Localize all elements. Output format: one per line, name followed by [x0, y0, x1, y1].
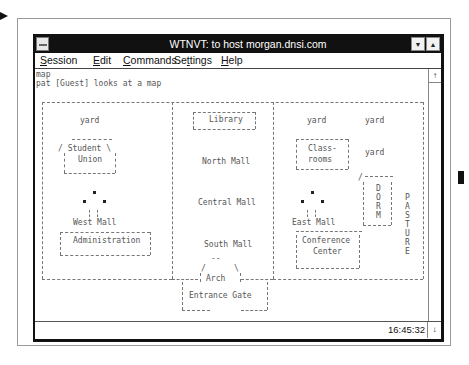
- scroll-down-button[interactable]: ↓: [427, 322, 441, 338]
- menu-help-rest: elp: [229, 54, 243, 66]
- menu-help-mnemonic: H: [221, 54, 229, 66]
- label-classrooms: Class-: [308, 144, 337, 153]
- admin-wall-right: [150, 232, 151, 255]
- label-yard-ne2: yard: [365, 116, 384, 125]
- menu-settings-rest: tings: [190, 54, 212, 66]
- side-marker: [458, 171, 464, 184]
- arch-top: --: [211, 254, 221, 263]
- menu-bar: Session Edit Commands Settings Help: [35, 53, 441, 69]
- dorm-slash: /: [358, 173, 363, 182]
- menu-help[interactable]: Help: [221, 53, 243, 68]
- conference-wall-right: [359, 235, 360, 268]
- tree-icon: [93, 191, 96, 194]
- library-floor: [193, 129, 255, 130]
- student-union-floor: [64, 173, 115, 174]
- gate-floor-right: [241, 310, 267, 311]
- classrooms-wall-left: [296, 139, 297, 169]
- path-line: [89, 210, 90, 217]
- admin-wall-left: [60, 232, 61, 255]
- minimize-button[interactable]: ▼: [411, 37, 425, 51]
- label-conference: Conference: [302, 236, 350, 245]
- arch-wall-left: [200, 273, 201, 282]
- label-arch: Arch: [206, 274, 225, 283]
- tree-icon: [83, 200, 86, 203]
- menu-commands[interactable]: Commands: [123, 53, 177, 68]
- student-union-roof: [72, 139, 112, 140]
- map-border-left: [42, 102, 43, 279]
- map-border-bottom-left: [42, 279, 172, 280]
- arch-wall-right: [240, 273, 241, 282]
- tree-icon: [321, 200, 324, 203]
- path-line: [307, 210, 308, 217]
- arch-slash-right: \: [234, 264, 239, 273]
- label-yard-ne1: yard: [307, 116, 326, 125]
- classrooms-wall-right: [348, 139, 349, 169]
- conference-roof: [296, 231, 362, 232]
- path-line: [315, 210, 316, 217]
- student-union-wall-right: [115, 153, 116, 173]
- map-border-bottom-right: [273, 279, 423, 280]
- menu-settings[interactable]: Settings: [174, 53, 212, 68]
- label-center: Center: [313, 247, 342, 256]
- classrooms-floor: [296, 169, 348, 170]
- terminal-window: WTNVT: to host morgan.dnsi.com ▼ ▲ Sessi…: [33, 34, 444, 342]
- arch-slash-left: /: [201, 264, 206, 273]
- conference-floor: [296, 268, 359, 269]
- window-title: WTNVT: to host morgan.dnsi.com: [35, 36, 441, 53]
- dorm-floor: [363, 225, 391, 226]
- title-bar[interactable]: WTNVT: to host morgan.dnsi.com ▼ ▲: [35, 36, 441, 53]
- library-roof: [193, 112, 255, 113]
- label-entrance-gate: Entrance Gate: [189, 291, 252, 300]
- tree-icon: [311, 191, 314, 194]
- classrooms-roof: [296, 139, 348, 140]
- map-border-bottom-mid-right: [241, 279, 273, 280]
- label-union: Union: [78, 155, 102, 164]
- gate-floor-left: [182, 310, 210, 311]
- dorm-wall-right: [391, 182, 392, 225]
- label-student-union: / Student \: [58, 144, 111, 153]
- dorm-roof: [365, 176, 393, 177]
- label-west-mall: West Mall: [73, 218, 116, 227]
- gate-wall-left: [182, 282, 183, 310]
- label-yard-nw: yard: [80, 116, 99, 125]
- admin-floor: [60, 255, 150, 256]
- pointer-arrow-icon: [0, 12, 8, 20]
- label-pasture: P A S T U R E: [405, 193, 411, 256]
- label-dorm: D O R M: [376, 184, 382, 220]
- map-border-top: [42, 102, 423, 103]
- campus-map: yard / Student \ Union West Mall Adminis…: [35, 69, 428, 322]
- status-time: 16:45:32: [388, 322, 425, 338]
- admin-roof: [60, 232, 150, 233]
- label-library: Library: [209, 115, 243, 124]
- label-administration: Administration: [73, 236, 140, 245]
- library-wall-left: [193, 112, 194, 129]
- conference-wall-left: [296, 235, 297, 268]
- menu-commands-mnemonic: C: [123, 54, 131, 66]
- menu-session-mnemonic: S: [40, 54, 47, 66]
- terminal-output[interactable]: map pat [Guest] looks at a map yard / St…: [35, 69, 428, 322]
- label-central-mall: Central Mall: [198, 198, 256, 207]
- label-south-mall: South Mall: [204, 240, 252, 249]
- scroll-up-button[interactable]: ↑: [429, 69, 441, 83]
- label-east-mall: East Mall: [292, 218, 335, 227]
- menu-commands-rest: ommands: [131, 54, 177, 66]
- gate-wall-right: [267, 282, 268, 310]
- maximize-button[interactable]: ▲: [426, 37, 440, 51]
- menu-edit-mnemonic: E: [93, 54, 100, 66]
- label-rooms: rooms: [308, 155, 332, 164]
- vertical-scrollbar[interactable]: ↑: [428, 69, 441, 322]
- label-north-mall: North Mall: [202, 157, 250, 166]
- label-yard-e: yard: [365, 148, 384, 157]
- student-union-wall-left: [64, 153, 65, 173]
- map-border-right: [423, 102, 424, 279]
- tree-icon: [301, 200, 304, 203]
- menu-edit-rest: dit: [100, 54, 111, 66]
- menu-session[interactable]: Session: [40, 53, 77, 68]
- library-wall-right: [255, 112, 256, 129]
- path-line: [97, 210, 98, 217]
- tree-icon: [103, 200, 106, 203]
- mall-divider-right: [273, 102, 274, 279]
- menu-edit[interactable]: Edit: [93, 53, 111, 68]
- menu-session-rest: ession: [47, 54, 77, 66]
- status-bar: 16:45:32 ↓: [35, 321, 441, 339]
